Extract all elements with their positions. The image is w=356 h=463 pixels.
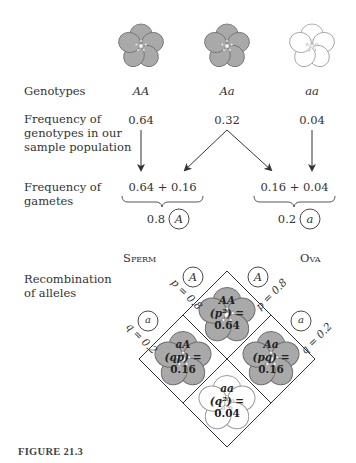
figure-caption: FIGURE 21.3 [18, 446, 83, 457]
arrow-Aa-right [227, 130, 271, 170]
sperm-a-allele: a [138, 314, 158, 325]
ova-a-allele: a [291, 314, 311, 325]
flower-Aa-icon [202, 24, 252, 71]
genotype-Aa: Aa [207, 84, 247, 98]
frequency-AA: 0.64 [121, 113, 161, 127]
genotype-AA: AA [121, 84, 161, 98]
brace-right [254, 196, 335, 207]
gamete-A-value: 0.8 [146, 212, 166, 226]
genotypes-row-label: Genotypes [24, 84, 86, 98]
brace-left [122, 196, 203, 207]
flower-AA-icon [116, 24, 166, 71]
ova-A-allele: A [248, 270, 268, 284]
cell-aA: aA (qp) = 0.16 [158, 338, 208, 376]
sperm-label: Sperm [123, 251, 156, 265]
gamete-a-sum: 0.16 + 0.04 [254, 180, 335, 194]
diagram-graphics [0, 0, 356, 463]
cell-aa: aa (q²) = 0.04 [202, 382, 252, 420]
ova-label: Ova [300, 251, 320, 265]
genotype-aa: aa [292, 84, 332, 98]
gamete-a-value: 0.2 [277, 212, 297, 226]
frequency-Aa: 0.32 [207, 113, 247, 127]
sperm-A-allele: A [183, 270, 203, 284]
cell-AA: AA (p²) = 0.64 [202, 294, 252, 332]
gamete-A-sum: 0.64 + 0.16 [122, 180, 203, 194]
recombination-label: Recombination of alleles [24, 272, 112, 300]
arrow-Aa-left [185, 130, 227, 170]
gamete-a-allele: a [300, 212, 320, 226]
frequency-gametes-label: Frequency of gametes [24, 180, 101, 208]
frequency-aa: 0.04 [292, 113, 332, 127]
gamete-A-allele: A [169, 212, 189, 226]
cell-Aa: Aa (pq) = 0.16 [246, 338, 296, 376]
flower-aa-icon [287, 24, 337, 71]
frequency-genotypes-label: Frequency of genotypes in our sample pop… [24, 112, 131, 154]
